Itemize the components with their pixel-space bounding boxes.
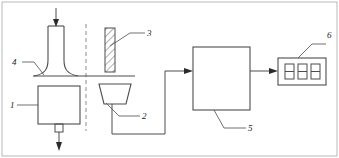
processor-input-arrow-head	[184, 68, 193, 74]
source-box-outlet-nipple	[55, 124, 63, 132]
callout-label-6: 6	[327, 30, 332, 40]
callout-label-4: 4	[12, 57, 17, 67]
callout-label-1: 1	[10, 100, 15, 110]
detector-item2	[99, 84, 131, 104]
display-digit-group	[285, 64, 320, 79]
callout-label-5: 5	[248, 123, 253, 133]
callout-label-3: 3	[146, 28, 152, 38]
processor-box-item5	[193, 47, 250, 110]
signal-wire-detector-to-processor	[112, 71, 186, 134]
callout-leader-6	[298, 44, 326, 58]
hatched-plate-item3	[105, 28, 115, 72]
schematic-diagram: 4 3 1 2 5	[0, 0, 339, 158]
callout-label-2: 2	[142, 111, 147, 121]
display-input-arrow-head	[269, 68, 278, 74]
nozzle-left-wall	[34, 26, 48, 76]
nozzle-right-wall	[64, 26, 78, 76]
schematic-canvas: 4 3 1 2 5	[0, 0, 339, 158]
source-box-item1	[38, 86, 80, 124]
source-outlet-arrow-head	[56, 142, 62, 151]
callout-leader-4	[22, 62, 44, 75]
callout-leader-2	[106, 103, 140, 116]
callout-leader-5	[214, 110, 246, 128]
